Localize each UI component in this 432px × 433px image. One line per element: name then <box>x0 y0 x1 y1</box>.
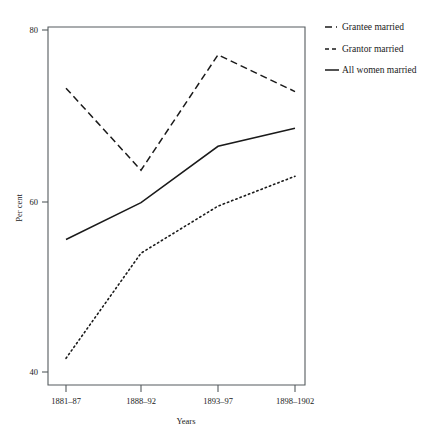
series-line-all-women-married <box>66 128 295 239</box>
series-group <box>66 55 295 359</box>
y-tick-label-40: 40 <box>30 367 39 377</box>
plot-frame <box>48 27 305 385</box>
plot-border <box>48 27 305 385</box>
legend-label-grantor: Grantor married <box>342 44 404 54</box>
x-tick-label-2: 1893–97 <box>203 396 233 406</box>
legend-label-all-women: All women married <box>342 65 417 75</box>
x-tick-label-3: 1898–1902 <box>276 396 314 406</box>
x-axis-ticks <box>66 385 295 392</box>
y-tick-label-80: 80 <box>30 25 39 35</box>
y-tick-label-60: 60 <box>30 197 39 207</box>
x-axis-title: Years <box>177 416 196 426</box>
x-tick-label-1: 1888–92 <box>126 396 156 406</box>
x-tick-label-0: 1881–87 <box>51 396 81 406</box>
chart-legend: Grantee married Grantor married All wome… <box>325 22 417 75</box>
line-chart: 80 60 40 1881–87 1888–92 1893–97 1898–19… <box>0 0 432 433</box>
series-line-grantee-married <box>66 55 295 170</box>
chart-figure: 80 60 40 1881–87 1888–92 1893–97 1898–19… <box>0 0 432 433</box>
legend-label-grantee: Grantee married <box>342 22 404 32</box>
y-axis-ticks <box>42 30 48 372</box>
series-line-grantor-married <box>66 176 295 358</box>
y-axis-title: Per cent <box>14 194 24 222</box>
